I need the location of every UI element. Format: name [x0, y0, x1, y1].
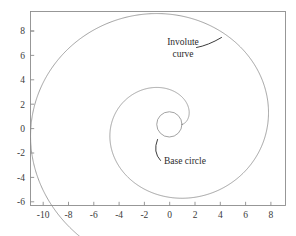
y-tick-label: 6: [20, 51, 25, 61]
x-tick-label: 6: [243, 210, 248, 220]
x-tick-label: 8: [269, 210, 274, 220]
y-tick-label: 4: [20, 75, 25, 85]
involute-label-line1: Involute: [167, 37, 199, 47]
y-axis-tick-labels: 8 6 4 2 0 -2 -4 -6: [17, 26, 25, 207]
x-tick-label: -2: [140, 210, 148, 220]
x-tick-label: -10: [37, 210, 50, 220]
x-tick-label: -4: [115, 210, 123, 220]
x-tick-label: 4: [218, 210, 223, 220]
base-circle-label: Base circle: [164, 156, 206, 166]
involute-label-line2: curve: [172, 49, 193, 59]
x-axis-tick-labels: -10 -8 -6 -4 -2 0 2 4 6 8: [37, 210, 274, 220]
x-tick-label: 2: [193, 210, 198, 220]
x-tick-label: -8: [65, 210, 73, 220]
y-tick-label: 2: [20, 100, 25, 110]
y-tick-label: 0: [20, 124, 25, 134]
y-tick-label: -2: [17, 148, 25, 158]
involute-curve-figure: -10 -8 -6 -4 -2 0 2 4 6 8 8 6 4 2 0 -2 -…: [0, 0, 296, 236]
x-tick-label: 0: [167, 210, 172, 220]
axes-frame: [31, 12, 286, 206]
y-tick-label: 8: [20, 26, 25, 36]
x-tick-label: -6: [90, 210, 98, 220]
base-circle: [157, 112, 182, 137]
base-circle-leader-line: [156, 140, 161, 161]
y-tick-label: -6: [17, 197, 25, 207]
plot-canvas: -10 -8 -6 -4 -2 0 2 4 6 8 8 6 4 2 0 -2 -…: [0, 0, 296, 236]
x-axis-tickmarks: [43, 202, 271, 206]
involute-leader-line: [197, 38, 222, 48]
involute-curve: [31, 14, 269, 236]
y-tick-label: -4: [17, 173, 25, 183]
